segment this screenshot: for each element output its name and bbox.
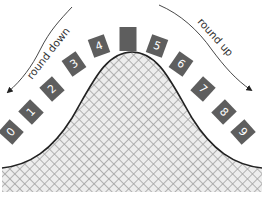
tile-box <box>120 27 137 51</box>
tile-3: 3 <box>62 51 87 76</box>
tile-9: 9 <box>230 119 255 144</box>
round-down-label: round down <box>24 25 72 81</box>
tile-4: 4 <box>88 34 110 58</box>
tile-0: 0 <box>0 119 24 144</box>
tile-blank <box>120 27 137 51</box>
tile-5: 5 <box>146 34 168 58</box>
tile-2: 2 <box>39 76 64 101</box>
round-down-arrow <box>8 7 72 92</box>
tile-7: 7 <box>190 76 215 101</box>
bell-curve-diagram: round down round up 0123456789 <box>0 0 263 199</box>
tile-1: 1 <box>18 99 43 124</box>
tile-6: 6 <box>169 51 194 76</box>
tile-8: 8 <box>211 99 236 124</box>
